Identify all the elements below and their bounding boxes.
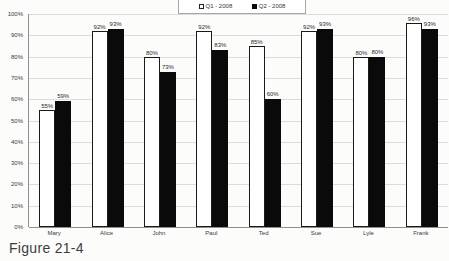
y-axis-tick-label: 100% bbox=[8, 11, 23, 17]
bar-value-label: 92% bbox=[94, 24, 106, 30]
bar-q1-paul: 92% bbox=[196, 31, 212, 227]
bar-value-label: 93% bbox=[319, 21, 331, 27]
legend-label-q1: Q1 - 2008 bbox=[206, 3, 233, 9]
y-axis-tick-label: 90% bbox=[11, 32, 23, 38]
bar-value-label: 92% bbox=[303, 24, 315, 30]
y-axis-tick-label: 70% bbox=[11, 75, 23, 81]
x-axis-category-label: Alice bbox=[80, 230, 132, 236]
bar-group: 96%93% bbox=[396, 14, 448, 227]
x-axis-category-label: Paul bbox=[185, 230, 237, 236]
bar-value-label: 83% bbox=[214, 42, 226, 48]
y-axis-tick-label: 40% bbox=[11, 139, 23, 145]
bar-value-label: 80% bbox=[355, 50, 367, 56]
bar-value-label: 80% bbox=[146, 50, 158, 56]
x-axis-category-label: Lyle bbox=[342, 230, 394, 236]
y-axis-tick-label: 60% bbox=[11, 96, 23, 102]
y-axis: 0%10%20%30%40%50%60%70%80%90%100% bbox=[0, 14, 25, 227]
gridline bbox=[29, 227, 448, 228]
legend-item-q1: Q1 - 2008 bbox=[199, 3, 233, 9]
bar-q2-lyle: 80% bbox=[369, 57, 385, 227]
bar-value-label: 73% bbox=[162, 64, 174, 70]
x-axis: MaryAliceJohnPaulTedSueLyleFrank bbox=[28, 230, 447, 240]
bar-group: 55%59% bbox=[29, 14, 81, 227]
y-axis-tick-label: 10% bbox=[11, 203, 23, 209]
x-axis-category-label: John bbox=[133, 230, 185, 236]
y-axis-tick-label: 80% bbox=[11, 54, 23, 60]
bar-value-label: 93% bbox=[424, 21, 436, 27]
bar-q2-frank: 93% bbox=[422, 29, 438, 227]
x-axis-category-label: Frank bbox=[395, 230, 447, 236]
bar-q2-sue: 93% bbox=[317, 29, 333, 227]
bar-q2-john: 73% bbox=[160, 72, 176, 227]
x-axis-category-label: Sue bbox=[290, 230, 342, 236]
bar-value-label: 80% bbox=[371, 49, 383, 55]
bar-value-label: 92% bbox=[198, 24, 210, 30]
y-axis-tick-label: 30% bbox=[11, 160, 23, 166]
bar-value-label: 60% bbox=[267, 91, 279, 97]
chart-page: Q1 - 2008 Q2 - 2008 0%10%20%30%40%50%60%… bbox=[0, 0, 449, 261]
legend: Q1 - 2008 Q2 - 2008 bbox=[178, 0, 306, 14]
bar-q1-alice: 92% bbox=[92, 31, 108, 227]
bar-q2-ted: 60% bbox=[265, 99, 281, 227]
bar-group: 92%83% bbox=[186, 14, 238, 227]
bar-value-label: 55% bbox=[41, 103, 53, 109]
bar-value-label: 96% bbox=[408, 16, 420, 22]
bar-q1-sue: 92% bbox=[301, 31, 317, 227]
bar-q1-ted: 85% bbox=[249, 46, 265, 227]
legend-swatch-q2-icon bbox=[252, 4, 257, 9]
bar-q2-paul: 83% bbox=[212, 50, 228, 227]
bar-q2-alice: 93% bbox=[108, 29, 124, 227]
bar-group: 85%60% bbox=[239, 14, 291, 227]
y-axis-tick-label: 0% bbox=[14, 224, 23, 230]
bar-q1-mary: 55% bbox=[39, 110, 55, 227]
bar-q1-john: 80% bbox=[144, 57, 160, 227]
legend-swatch-q1-icon bbox=[199, 4, 204, 9]
bar-q1-frank: 96% bbox=[406, 23, 422, 227]
y-axis-tick-label: 20% bbox=[11, 181, 23, 187]
bar-group: 92%93% bbox=[291, 14, 343, 227]
legend-label-q2: Q2 - 2008 bbox=[259, 3, 286, 9]
legend-item-q2: Q2 - 2008 bbox=[252, 3, 286, 9]
bar-q2-mary: 59% bbox=[55, 101, 71, 227]
x-axis-category-label: Ted bbox=[238, 230, 290, 236]
figure-caption: Figure 21-4 bbox=[9, 240, 84, 256]
bar-value-label: 85% bbox=[251, 39, 263, 45]
bar-group: 92%93% bbox=[81, 14, 133, 227]
bar-group: 80%73% bbox=[134, 14, 186, 227]
bar-q1-lyle: 80% bbox=[353, 57, 369, 227]
x-axis-category-label: Mary bbox=[28, 230, 80, 236]
bar-group: 80%80% bbox=[343, 14, 395, 227]
plot-area: 55%59%92%93%80%73%92%83%85%60%92%93%80%8… bbox=[28, 14, 448, 227]
y-axis-tick-label: 50% bbox=[11, 118, 23, 124]
bar-value-label: 93% bbox=[110, 21, 122, 27]
bar-value-label: 59% bbox=[57, 93, 69, 99]
